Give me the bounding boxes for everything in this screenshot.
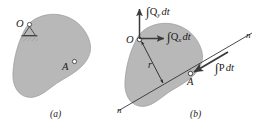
panel-b [118, 9, 252, 111]
label-normal-bottom: n [117, 106, 122, 115]
label-radius-r: r [148, 60, 152, 70]
caption-panel-b: (b) [190, 110, 201, 120]
label-impulse-qy: ∫Qydt [146, 6, 170, 19]
caption-panel-a: (a) [50, 110, 61, 120]
label-impulse-p: ∫Pdt [215, 62, 234, 75]
label-impulse-qx: ∫Qxdt [167, 31, 191, 44]
label-normal-top: n [246, 31, 251, 40]
label-point-a-b: A [187, 77, 193, 88]
differential-qx: dt [183, 31, 191, 42]
differential-p: dt [226, 62, 234, 73]
body-shape-a [13, 14, 91, 97]
differential-qy: dt [162, 6, 170, 17]
subscript-qy: y [157, 11, 160, 18]
figure-container: O A (a) O A r n n (b) ∫Qydt ∫Qxdt ∫Pdt [0, 0, 258, 131]
subscript-qx: x [178, 36, 181, 43]
label-origin-b: O [126, 35, 134, 46]
label-point-a-a: A [62, 62, 68, 73]
point-a-marker-a [72, 59, 76, 63]
symbol-p: P [219, 62, 225, 73]
label-origin-a: O [16, 19, 24, 30]
panel-a [13, 14, 91, 97]
